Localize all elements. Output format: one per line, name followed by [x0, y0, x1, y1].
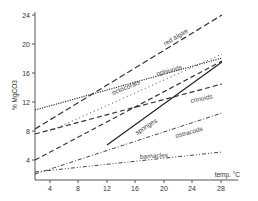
chart-svg: 4 8 12 16 20 24 4 8 12 16 20 24 28 % MgC…	[0, 0, 258, 201]
series-label-sponges: sponges	[134, 116, 160, 137]
series-line-barnacles	[35, 152, 222, 172]
x-tick-label: 24	[188, 185, 196, 192]
y-tick-label: 12	[22, 99, 30, 106]
x-tick-label: 12	[103, 185, 111, 192]
x-tick-label: 16	[131, 185, 139, 192]
y-tick-label: 16	[22, 70, 30, 77]
series-line-octocorals	[50, 54, 222, 131]
y-tick-label: 20	[22, 41, 30, 48]
x-axis-title: temp. °C	[215, 171, 241, 179]
y-axis-title: % MgCO3	[11, 80, 19, 110]
y-tick-label: 24	[22, 12, 30, 19]
x-tick-label: 20	[160, 185, 168, 192]
mgco3-temperature-chart: 4 8 12 16 20 24 4 8 12 16 20 24 28 % MgC…	[0, 0, 258, 201]
y-tick-label: 8	[26, 128, 30, 135]
x-ticks: 4 8 12 16 20 24 28	[48, 180, 225, 192]
y-ticks: 4 8 12 16 20 24	[22, 12, 35, 164]
series-line-ostracods	[35, 113, 222, 174]
series-line-red-algae	[35, 15, 222, 129]
series-line-unlabeled	[35, 61, 222, 160]
series-label-barnacles: barnacles	[140, 151, 169, 160]
series-label-ophiurids: ophiurids	[155, 63, 183, 78]
series-label-ostracods: ostracods	[174, 125, 204, 139]
x-tick-label: 4	[48, 185, 52, 192]
series-label-crinoids: crinoids	[190, 92, 214, 104]
x-tick-label: 8	[76, 185, 80, 192]
x-tick-label: 28	[217, 185, 225, 192]
series-label-octocorals: octocorals	[111, 78, 142, 96]
y-tick-label: 4	[26, 157, 30, 164]
